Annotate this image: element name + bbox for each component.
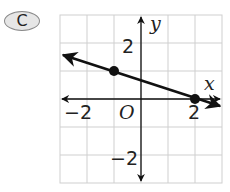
x-tick-2: 2 [188,101,200,123]
point-neg1-1 [109,66,119,76]
y-axis-label: y [149,12,161,34]
origin-label: O [119,101,135,123]
coordinate-plane: y x 2 −2 −2 2 O [0,0,230,192]
x-tick-neg2: −2 [64,101,92,123]
x-axis-label: x [204,72,215,94]
y-tick-2: 2 [122,35,134,57]
y-tick-neg2: −2 [110,147,138,169]
